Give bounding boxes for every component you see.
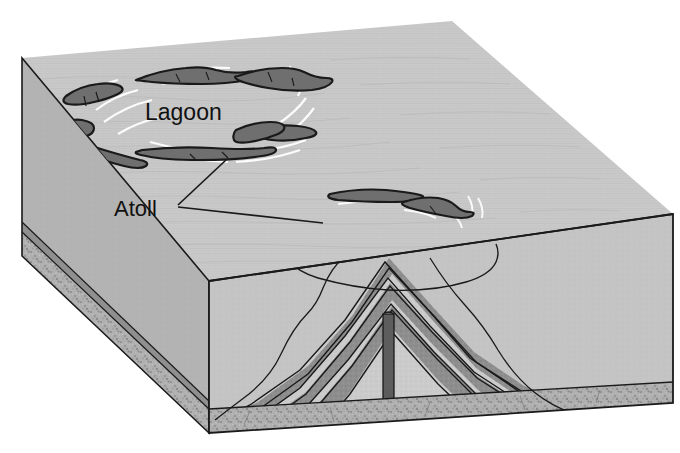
figure-canvas: Lagoon Atoll <box>0 0 680 453</box>
atoll-block-diagram: Lagoon Atoll <box>0 0 680 453</box>
atoll-label: Atoll <box>114 196 157 221</box>
lagoon-label: Lagoon <box>145 99 222 125</box>
